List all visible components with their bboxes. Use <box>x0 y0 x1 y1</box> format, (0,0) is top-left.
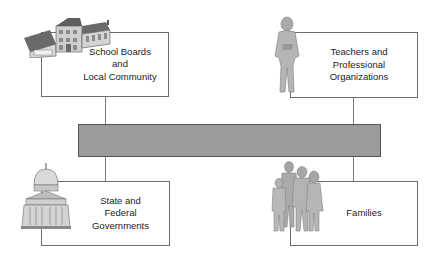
center-bar <box>78 124 381 157</box>
family-group-icon <box>270 161 326 235</box>
connector-teachers <box>353 97 354 124</box>
box-label: State and Federal Governments <box>92 195 149 232</box>
connector-school-boards <box>105 96 106 124</box>
teacher-figure-icon <box>273 16 303 94</box>
connector-government <box>105 156 106 181</box>
box-label: Families <box>346 207 381 219</box>
capitol-building-icon <box>20 163 74 231</box>
school-building-icon <box>20 12 116 58</box>
box-teachers: Teachers and Professional Organizations <box>290 32 418 98</box>
box-label: Teachers and Professional Organizations <box>330 46 389 83</box>
connector-families <box>353 156 354 181</box>
